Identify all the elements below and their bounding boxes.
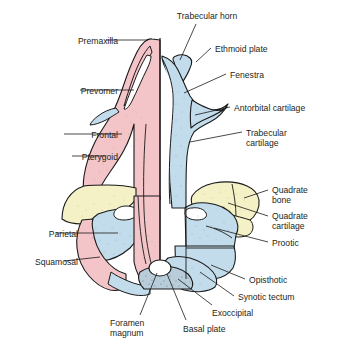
label-parietal: Parietal xyxy=(8,229,78,239)
label-trabecular-horn: Trabecular horn xyxy=(162,11,252,21)
label-basal-plate: Basal plate xyxy=(183,324,261,334)
label-quadrate-cartilage: Quadrate cartilage xyxy=(272,211,338,231)
right-fenestra-oval xyxy=(185,208,207,220)
label-trabecular-cartilage: Trabecular cartilage xyxy=(246,128,338,148)
label-premaxilla: Premaxilla xyxy=(8,36,118,46)
label-synotic-tectum: Synotic tectum xyxy=(238,292,338,302)
label-foramen-magnum: Foramen magnum xyxy=(110,318,174,338)
label-prootic: Prootic xyxy=(272,238,338,248)
leader-line-fenestra xyxy=(184,74,226,93)
leader-line-ethmoid-plate xyxy=(196,48,211,62)
label-opisthotic: Opisthotic xyxy=(249,275,337,285)
label-quadrate-bone: Quadrate bone xyxy=(272,185,338,205)
label-pterygoid: Pterygoid xyxy=(8,152,118,162)
label-frontal: Frontal xyxy=(8,130,118,140)
figure-canvas: Trabecular hornPremaxillaEthmoid plateFe… xyxy=(0,0,338,355)
label-squamosal: Squamosal xyxy=(8,257,78,267)
leader-line-trabecular-cartilage xyxy=(190,132,242,142)
label-fenestra: Fenestra xyxy=(230,70,330,80)
label-ethmoid-plate: Ethmoid plate xyxy=(215,44,325,54)
label-prevomer: Prevomer xyxy=(8,86,118,96)
label-exoccipital: Exoccipital xyxy=(212,308,296,318)
label-antorbital-cartilage: Antorbital cartilage xyxy=(234,103,338,113)
foramen-magnum-opening xyxy=(149,260,171,276)
leader-line-trabecular-horn xyxy=(180,24,196,60)
